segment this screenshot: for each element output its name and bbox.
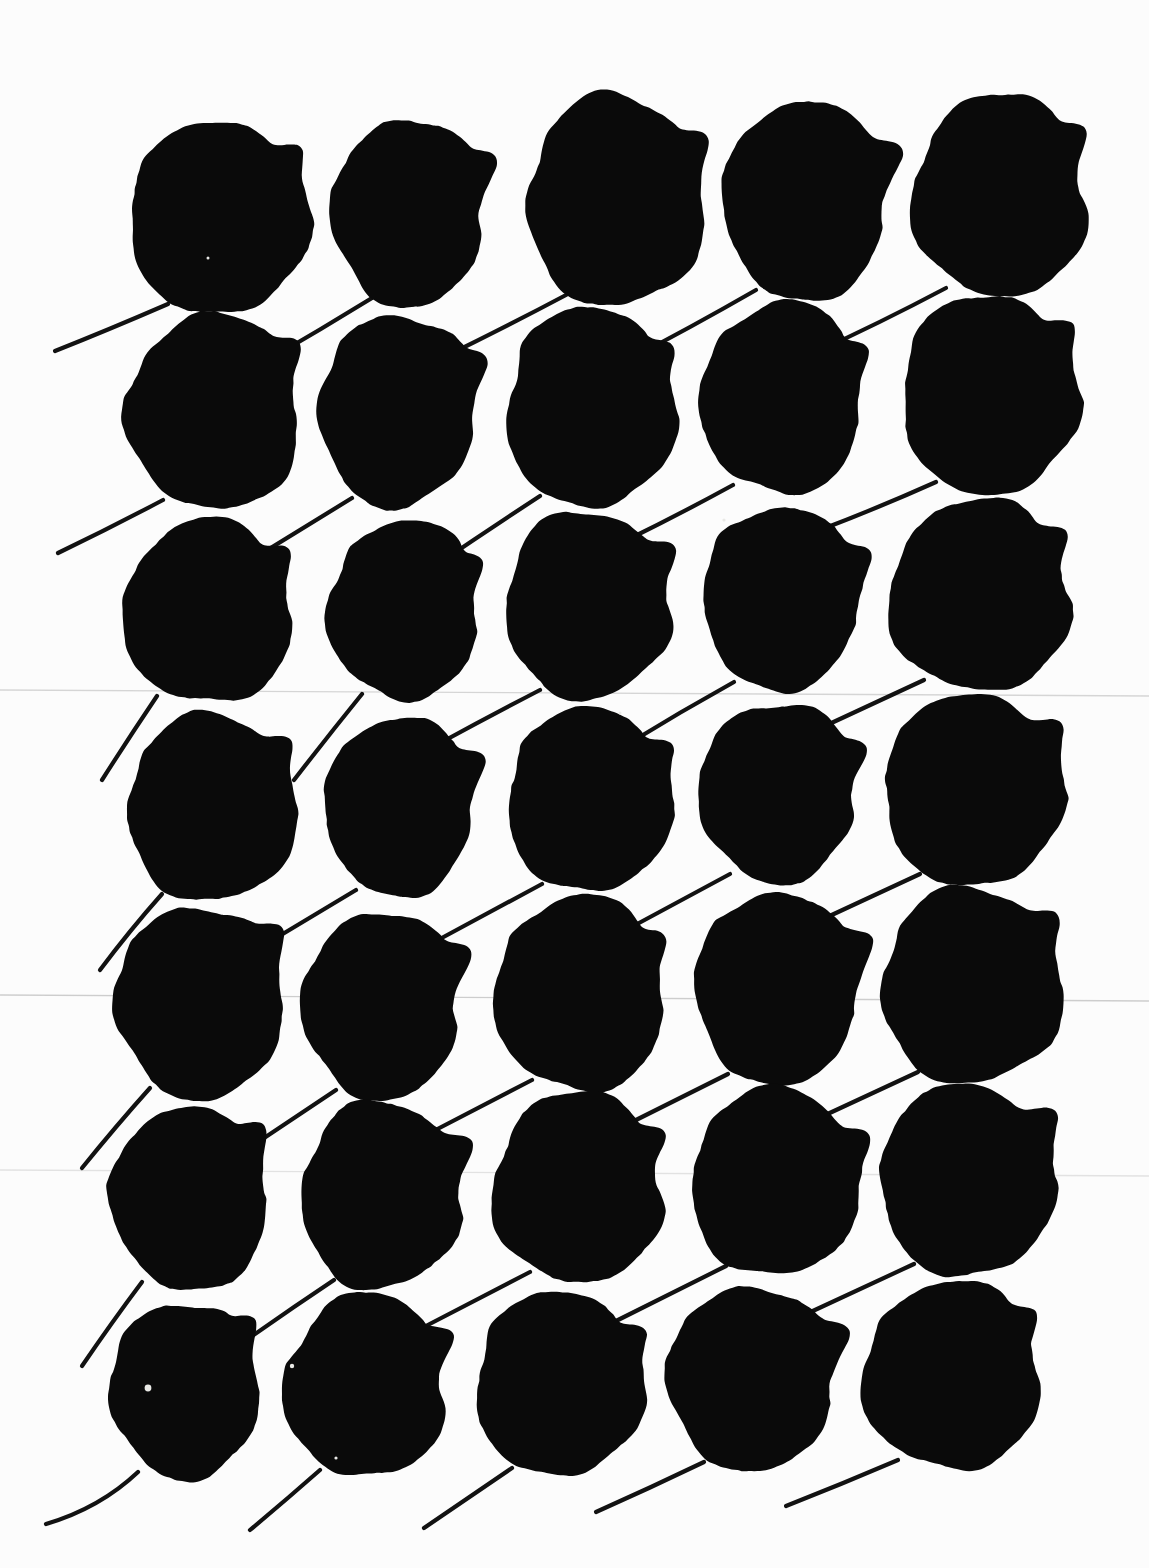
paper-speck <box>619 712 622 715</box>
paper-speck <box>207 257 210 260</box>
paper-speck <box>722 518 725 521</box>
paper-speck <box>334 1456 337 1459</box>
specimen-sheet <box>0 0 1149 1568</box>
paper-speck <box>145 1385 152 1392</box>
leaf-plate-canvas <box>0 0 1149 1568</box>
paper-speck <box>290 1364 294 1368</box>
